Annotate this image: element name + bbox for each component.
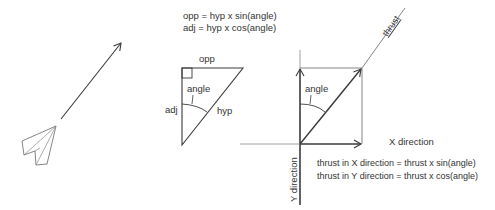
thrust-line xyxy=(362,8,405,68)
x-thrust-formula: thrust in X direction = thrust x sin(ang… xyxy=(317,158,476,168)
opp-formula: opp = hyp x sin(angle) xyxy=(183,10,277,21)
y-thrust-formula: thrust in Y direction = thrust x cos(ang… xyxy=(317,171,478,181)
thrust-vector-arrow xyxy=(300,69,361,144)
right-angle-marker xyxy=(182,68,192,78)
flight-arrow-icon xyxy=(61,43,121,119)
thrust-trig-diagram: opp = hyp x sin(angle) adj = hyp x cos(a… xyxy=(0,0,495,210)
adj-label: adj xyxy=(165,104,178,115)
opp-label: opp xyxy=(199,53,215,64)
thrust-angle-arc xyxy=(300,104,325,112)
right-triangle xyxy=(182,68,243,145)
paper-plane-icon xyxy=(22,126,56,165)
x-direction-label: X direction xyxy=(389,136,434,147)
angle-arc xyxy=(182,104,207,112)
thrust-angle-label: angle xyxy=(305,83,328,94)
y-direction-label: Y direction xyxy=(288,157,299,202)
adj-formula: adj = hyp x cos(angle) xyxy=(183,22,276,33)
hyp-label: hyp xyxy=(217,105,232,116)
triangle-angle-label: angle xyxy=(187,83,210,94)
